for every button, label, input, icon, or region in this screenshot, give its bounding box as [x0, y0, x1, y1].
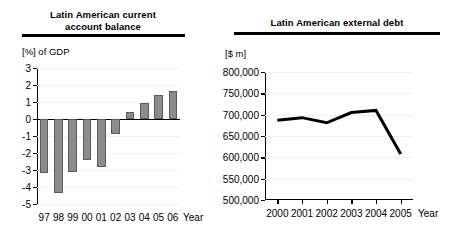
x-axis-label: 06 — [167, 212, 178, 223]
chart-panel-current-account-balance: Latin American current account balance [… — [0, 0, 222, 252]
x-axis-label: 05 — [153, 212, 164, 223]
x-axis-tick — [351, 200, 352, 204]
bar-00 — [83, 119, 92, 160]
y-axis-label: 550,000 — [223, 173, 259, 184]
bar-01 — [97, 119, 106, 167]
y-axis-tick — [33, 187, 37, 188]
y-axis-label: 800,000 — [223, 67, 259, 78]
debt-line-path — [277, 110, 400, 154]
y-axis-label: 750,000 — [223, 88, 259, 99]
bar-02 — [111, 119, 120, 134]
chart-title-line-1: Latin American external debt — [232, 17, 442, 29]
y-axis-unit-label-dollars: [$ m] — [225, 48, 246, 59]
chart-title-line-2: account balance — [8, 21, 198, 33]
y-axis-tick — [33, 153, 37, 154]
x-axis-label: 03 — [124, 212, 135, 223]
x-axis-label: 2002 — [316, 208, 338, 219]
bar-97 — [40, 119, 49, 173]
y-axis-label: -5 — [22, 199, 31, 210]
chart-title-current-account-balance: Latin American current account balance — [8, 9, 198, 33]
bar-04 — [140, 103, 149, 119]
y-axis-label: 650,000 — [223, 131, 259, 142]
y-axis-tick — [33, 170, 37, 171]
y-axis-label: 3 — [25, 63, 31, 74]
x-axis-label: 02 — [110, 212, 121, 223]
x-axis-tick — [302, 200, 303, 204]
y-axis-label: 1 — [25, 97, 31, 108]
x-axis-label: 2003 — [340, 208, 362, 219]
bar-99 — [68, 119, 77, 172]
x-axis-label: 99 — [67, 212, 78, 223]
x-axis-label: 98 — [53, 212, 64, 223]
x-axis-label: 2005 — [390, 208, 412, 219]
x-axis-label: 04 — [139, 212, 150, 223]
y-axis-tick — [33, 102, 37, 103]
chart-title-external-debt: Latin American external debt — [232, 17, 442, 29]
x-axis-label: 2004 — [365, 208, 387, 219]
title-underline-rule — [22, 34, 185, 37]
bar-05 — [154, 95, 163, 119]
y-axis-tick — [33, 85, 37, 86]
bar-03 — [126, 112, 135, 119]
y-axis-tick — [33, 136, 37, 137]
y-axis-label: 500,000 — [223, 195, 259, 206]
chart-panel-external-debt: Latin American external debt [$ m] 800,0… — [222, 0, 466, 252]
y-axis-label: 2 — [25, 80, 31, 91]
y-axis-tick — [33, 68, 37, 69]
bar-98 — [54, 119, 63, 193]
y-axis-unit-label-gdp: [%] of GDP — [22, 46, 70, 57]
plot-area-bar-chart: 3210-1-2-3-4-5 97989900010203040506 — [37, 68, 180, 204]
x-axis-tick — [376, 200, 377, 204]
title-underline-rule — [234, 32, 440, 35]
x-axis-caption-year-right: Year — [418, 208, 438, 219]
figure-container: Latin American current account balance [… — [0, 0, 466, 252]
gridline — [37, 204, 180, 205]
y-axis-tick — [261, 200, 265, 201]
bar-06 — [169, 91, 178, 119]
x-axis-label: 01 — [96, 212, 107, 223]
x-axis-label: 2000 — [266, 208, 288, 219]
y-axis-label: -1 — [22, 131, 31, 142]
gridline — [37, 85, 180, 86]
chart-title-line-1: Latin American current — [8, 9, 198, 21]
x-axis-caption-year-left: Year — [183, 212, 203, 223]
line-series — [265, 72, 413, 200]
x-axis-label: 2001 — [291, 208, 313, 219]
x-axis-tick — [277, 200, 278, 204]
x-axis-tick — [401, 200, 402, 204]
x-axis-label: 00 — [81, 212, 92, 223]
y-axis-label: -2 — [22, 148, 31, 159]
y-axis-label: 0 — [25, 114, 31, 125]
gridline — [37, 68, 180, 69]
y-axis-label: 700,000 — [223, 109, 259, 120]
y-axis-label: 600,000 — [223, 152, 259, 163]
x-axis-tick — [327, 200, 328, 204]
y-axis-label: -3 — [22, 165, 31, 176]
x-axis-label: 97 — [39, 212, 50, 223]
y-axis-tick — [33, 204, 37, 205]
plot-area-line-chart: 800,000750,000700,000650,000600,000550,0… — [265, 72, 413, 200]
y-axis-label: -4 — [22, 182, 31, 193]
